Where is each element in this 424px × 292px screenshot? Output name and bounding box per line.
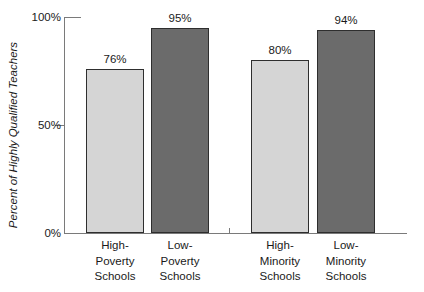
bar-high-minority-schools [251,60,309,233]
y-axis-title: Percent of Highly Qualified Teachers [7,35,21,235]
x-axis-group-divider-tick [229,228,230,234]
category-label-line: Minority [245,254,315,270]
category-label-low-minority-schools: Low- Minority Schools [311,238,381,285]
bar-chart-percent-highly-qualified-teachers: Percent of Highly Qualified Teachers 100… [0,0,424,292]
category-label-high-minority-schools: High- Minority Schools [245,238,315,285]
category-label-low-poverty-schools: Low- Poverty Schools [145,238,215,285]
bar-value-label-high-poverty: 76% [86,53,144,66]
bar-high-poverty-schools [86,69,144,233]
y-tick-100-mark [65,17,81,18]
category-label-line: High- [80,238,150,254]
category-label-line: Schools [80,269,150,285]
y-tick-label-0: 0% [18,227,61,240]
y-axis-line [64,17,65,233]
category-label-line: High- [245,238,315,254]
y-tick-label-100: 100% [18,11,61,24]
bar-low-poverty-schools [151,28,209,233]
bar-value-label-low-minority: 94% [317,14,375,27]
category-label-line: Minority [311,254,381,270]
category-label-line: Low- [145,238,215,254]
x-axis-line [64,233,407,234]
category-label-line: Schools [245,269,315,285]
category-label-line: Low- [311,238,381,254]
category-label-line: Poverty [80,254,150,270]
bar-value-label-high-minority: 80% [251,44,309,57]
bar-low-minority-schools [317,30,375,233]
y-tick-label-50: 50% [18,119,61,132]
category-label-high-poverty-schools: High- Poverty Schools [80,238,150,285]
category-label-line: Schools [311,269,381,285]
bar-value-label-low-poverty: 95% [151,12,209,25]
category-label-line: Poverty [145,254,215,270]
category-label-line: Schools [145,269,215,285]
